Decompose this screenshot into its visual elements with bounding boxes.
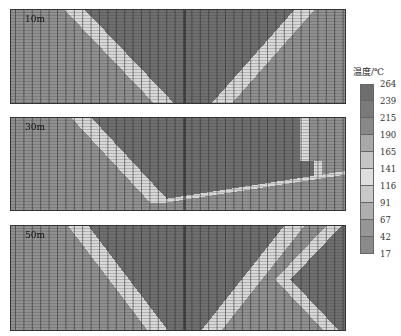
colorbar [360,84,374,254]
heatmap-10m [11,10,346,104]
heatmap-30m [11,118,346,211]
colorbar-segment [360,203,374,220]
colorbar-segment [360,101,374,118]
heatmap-50m [11,226,346,331]
panel-50m: 50m [10,225,346,331]
colorbar-tick: 17 [380,249,391,259]
colorbar-segment [360,135,374,152]
panel-label-50m: 50m [25,230,45,240]
colorbar-tick: 116 [380,181,396,191]
colorbar-tick: 239 [380,96,396,106]
colorbar-segment [360,118,374,135]
colorbar-segment [360,237,374,254]
colorbar-tick: 190 [380,130,396,140]
colorbar-segment [360,152,374,169]
colorbar-tick: 141 [380,164,396,174]
panel-label-10m: 10m [25,14,45,24]
panel-label-30m: 30m [25,122,45,132]
colorbar-tick: 165 [380,147,396,157]
panel-10m: 10m [10,9,346,104]
colorbar-segment [360,169,374,186]
colorbar-title: 温度/℃ [353,65,384,78]
panel-30m: 30m [10,117,346,211]
colorbar-tick: 264 [380,79,396,89]
colorbar-segment [360,84,374,101]
colorbar-tick: 42 [380,232,391,242]
colorbar-segment [360,220,374,237]
colorbar-tick: 67 [380,215,391,225]
colorbar-tick: 215 [380,113,396,123]
colorbar-tick: 91 [380,198,391,208]
colorbar-segment [360,186,374,203]
